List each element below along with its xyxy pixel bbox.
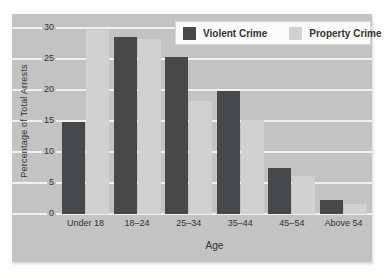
x-tick-label-under-18: Under 18 xyxy=(62,218,109,228)
bar-property-crime-25-34 xyxy=(189,101,212,214)
bar-property-crime-35-44 xyxy=(241,120,264,214)
y-tick-label-15: 15 xyxy=(26,115,56,126)
y-tick-label-5: 5 xyxy=(26,177,56,188)
bar-violent-crime-under-18 xyxy=(62,122,85,214)
bar-group-35-44 xyxy=(217,91,264,214)
legend-swatch-violent-crime xyxy=(183,27,196,40)
legend: Violent CrimeProperty Crime xyxy=(175,21,371,45)
y-tick-label-30: 30 xyxy=(26,22,56,33)
y-tick-label-10: 10 xyxy=(26,146,56,157)
bar-property-crime-under-18 xyxy=(86,30,109,214)
bar-violent-crime-above-54 xyxy=(320,200,343,214)
page: { "chart_data": { "type": "bar", "title"… xyxy=(0,0,385,278)
bar-group-under-18 xyxy=(62,30,109,214)
x-tick-label-45-54: 45–54 xyxy=(268,218,315,228)
bar-group-45-54 xyxy=(268,168,315,215)
bar-property-crime-18-24 xyxy=(138,39,161,214)
legend-label-property-crime: Property Crime xyxy=(309,28,381,39)
bar-violent-crime-45-54 xyxy=(268,168,291,215)
bar-group-above-54 xyxy=(320,200,367,214)
chart-panel: 051015202530 Percentage of Total Arrests… xyxy=(12,14,372,262)
bar-groups xyxy=(62,28,367,214)
bar-violent-crime-25-34 xyxy=(165,57,188,214)
x-tick-label-18-24: 18–24 xyxy=(114,218,161,228)
legend-entry-property-crime: Property Crime xyxy=(289,27,381,40)
x-axis-title: Age xyxy=(62,240,367,251)
y-tick-label-0: 0 xyxy=(26,208,56,219)
bar-property-crime-45-54 xyxy=(292,176,315,214)
legend-entry-violent-crime: Violent Crime xyxy=(183,27,267,40)
bar-group-25-34 xyxy=(165,57,212,214)
legend-swatch-property-crime xyxy=(289,27,302,40)
bar-property-crime-above-54 xyxy=(344,204,367,214)
y-axis-title: Percentage of Total Arrests xyxy=(19,64,29,177)
x-tick-label-above-54: Above 54 xyxy=(320,218,367,228)
x-tick-label-35-44: 35–44 xyxy=(217,218,264,228)
y-tick-label-25: 25 xyxy=(26,53,56,64)
bar-violent-crime-35-44 xyxy=(217,91,240,214)
x-tick-label-25-34: 25–34 xyxy=(165,218,212,228)
bar-violent-crime-18-24 xyxy=(114,37,137,214)
y-tick-label-20: 20 xyxy=(26,84,56,95)
legend-label-violent-crime: Violent Crime xyxy=(203,28,267,39)
bar-group-18-24 xyxy=(114,37,161,214)
x-tick-labels: Under 1818–2425–3435–4445–54Above 54 xyxy=(62,218,367,228)
